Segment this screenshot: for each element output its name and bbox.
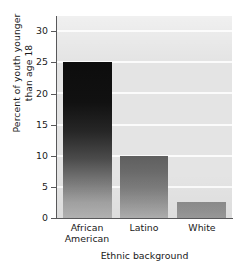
x-tick-label-latino: Latino	[112, 222, 176, 233]
y-tick-label-15: 15	[8, 120, 48, 129]
bar-latino	[120, 156, 168, 218]
x-tick-label-white: White	[170, 222, 234, 233]
y-tick-30	[51, 31, 56, 32]
y-tick-15	[51, 125, 56, 126]
y-tick-0	[51, 218, 56, 219]
y-tick-label-30: 30	[8, 26, 48, 35]
gridline-30	[57, 30, 232, 32]
x-axis-line	[56, 218, 233, 219]
y-tick-25	[51, 62, 56, 63]
x-axis-title: Ethnic background	[57, 251, 232, 261]
y-axis-line	[56, 16, 57, 219]
bar-chart-figure: Percent of youth younger than age 18 0 5…	[0, 0, 244, 271]
x-tick-label-white-line-1: White	[170, 222, 234, 233]
y-tick-5	[51, 187, 56, 188]
y-tick-label-0: 0	[8, 213, 48, 222]
y-tick-10	[51, 156, 56, 157]
y-tick-label-20: 20	[8, 89, 48, 98]
bar-african-american	[63, 62, 112, 218]
y-tick-label-5: 5	[8, 182, 48, 191]
bar-white	[177, 202, 226, 218]
y-axis-title-line-2: than age 18	[23, 0, 35, 163]
x-tick-label-african-american-line-2: American	[48, 233, 126, 244]
y-tick-label-25: 25	[8, 57, 48, 66]
y-axis-title-line-1: Percent of youth younger	[11, 0, 23, 163]
x-tick-label-latino-line-1: Latino	[112, 222, 176, 233]
y-tick-20	[51, 94, 56, 95]
y-tick-label-10: 10	[8, 151, 48, 160]
plot-area	[57, 16, 232, 218]
